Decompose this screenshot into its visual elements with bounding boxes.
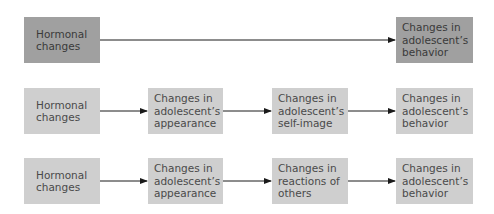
row2-appearance-box: Changes in adolescent’s appearance	[148, 88, 223, 134]
row2-behavior-box: Changes in adolescent’s behavior	[396, 88, 473, 134]
row2-self-image-box: Changes in adolescent’s self-image	[272, 88, 348, 134]
box-label: Changes in adolescent’s behavior	[402, 92, 468, 130]
box-label: Changes in adolescent’s appearance	[154, 162, 220, 200]
row1-hormonal-changes-box: Hormonal changes	[24, 17, 100, 63]
box-label: Changes in reactions of others	[278, 162, 340, 200]
row1-behavior-box: Changes in adolescent’s behavior	[396, 17, 473, 63]
box-label: Changes in adolescent’s appearance	[154, 92, 220, 130]
row3-hormonal-changes-box: Hormonal changes	[24, 158, 100, 204]
row3-behavior-box: Changes in adolescent’s behavior	[396, 158, 473, 204]
row3-appearance-box: Changes in adolescent’s appearance	[148, 158, 223, 204]
row3-reactions-of-others-box: Changes in reactions of others	[272, 158, 348, 204]
box-label: Hormonal changes	[36, 169, 87, 194]
box-label: Changes in adolescent’s self-image	[278, 92, 344, 130]
box-label: Changes in adolescent’s behavior	[402, 21, 468, 59]
box-label: Hormonal changes	[36, 28, 87, 53]
row2-hormonal-changes-box: Hormonal changes	[24, 88, 100, 134]
box-label: Changes in adolescent’s behavior	[402, 162, 468, 200]
box-label: Hormonal changes	[36, 99, 87, 124]
